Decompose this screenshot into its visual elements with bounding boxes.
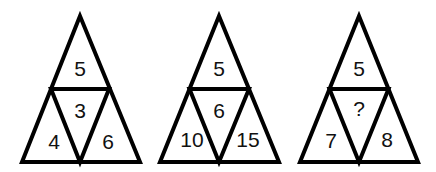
triangle-2-right-number: 15 — [236, 129, 259, 150]
triangle-2-left-number: 10 — [180, 129, 203, 150]
triangle-puzzle-diagram — [0, 0, 436, 172]
triangle-3-left-number: 7 — [325, 130, 337, 151]
triangle-3 — [300, 16, 418, 162]
triangle-1 — [22, 16, 140, 162]
triangle-1-top-number: 5 — [74, 58, 86, 79]
triangle-3-center-unknown: ? — [353, 98, 365, 119]
triangle-2 — [160, 16, 279, 162]
triangle-1-center-number: 3 — [74, 100, 86, 121]
triangle-2-center-number: 6 — [213, 100, 225, 121]
triangle-2-top-number: 5 — [213, 58, 225, 79]
triangle-3-top-number: 5 — [353, 58, 365, 79]
triangle-3-right-number: 8 — [381, 129, 393, 150]
triangle-1-left-number: 4 — [48, 131, 60, 152]
triangle-1-right-number: 6 — [102, 131, 114, 152]
